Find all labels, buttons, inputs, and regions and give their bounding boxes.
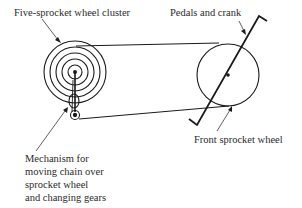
- chain-top-run: [76, 43, 219, 46]
- derailleur-mechanism: [69, 72, 80, 120]
- label-front-sprocket: Front sprocket wheel: [194, 133, 283, 146]
- label-sprocket-cluster: Five-sprocket wheel cluster: [14, 6, 130, 19]
- label-mechanism: Mechanism for moving chain over sprocket…: [25, 152, 106, 204]
- label-pedals-crank: Pedals and crank: [170, 6, 241, 19]
- leader-arrows: [36, 19, 246, 151]
- label-mechanism-line-2: moving chain over: [25, 165, 106, 178]
- label-mechanism-line-1: Mechanism for: [25, 152, 106, 165]
- label-mechanism-line-3: sprocket wheel: [25, 178, 106, 191]
- label-mechanism-line-4: and changing gears: [25, 191, 106, 204]
